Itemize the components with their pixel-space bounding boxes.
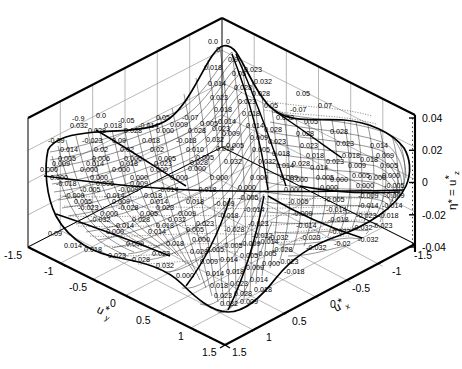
- figure-container: -0.9 0.0 -0.05 0.05 -0.07 0.028 0.028 0.…: [0, 0, 462, 369]
- y-tick-label: -0.5: [69, 281, 87, 293]
- svg-text:0.028: 0.028: [132, 255, 150, 264]
- svg-text:-0.02: -0.02: [334, 239, 350, 248]
- x-tick-label: 1: [266, 331, 272, 343]
- svg-text:-0.023: -0.023: [278, 257, 298, 266]
- svg-text:-0.018: -0.018: [176, 136, 196, 145]
- z-tick-label: 0.02: [422, 144, 443, 156]
- svg-text:0.0: 0.0: [208, 37, 218, 46]
- svg-text:0.000: 0.000: [192, 235, 210, 244]
- svg-text:-0.018: -0.018: [196, 185, 216, 194]
- svg-text:0.028: 0.028: [292, 159, 310, 168]
- svg-text:0.032: 0.032: [224, 157, 242, 166]
- svg-text:0.000: 0.000: [176, 271, 194, 280]
- svg-text:0.018: 0.018: [186, 197, 204, 206]
- svg-text:-0.018: -0.018: [378, 211, 398, 220]
- svg-text:0.000: 0.000: [210, 173, 228, 182]
- svg-text:0.000: 0.000: [330, 175, 348, 184]
- svg-text:0.023: 0.023: [210, 93, 228, 102]
- svg-text:-0.023: -0.023: [82, 136, 102, 145]
- svg-text:0.028: 0.028: [252, 89, 270, 98]
- svg-text:0.02: 0.02: [94, 145, 108, 154]
- svg-text:-0.023: -0.023: [372, 221, 392, 230]
- svg-text:-0.018: -0.018: [218, 211, 238, 220]
- svg-text:0.028: 0.028: [330, 127, 348, 136]
- svg-text:0.023: 0.023: [300, 141, 318, 150]
- svg-text:0.014: 0.014: [246, 121, 264, 130]
- svg-text:0.018: 0.018: [254, 285, 272, 294]
- svg-text:0.018: 0.018: [226, 267, 244, 276]
- svg-text:0.018: 0.018: [166, 239, 184, 248]
- svg-text:0.05: 0.05: [264, 101, 278, 110]
- svg-text:-0.009: -0.009: [214, 199, 234, 208]
- svg-text:-0.028: -0.028: [272, 245, 292, 254]
- svg-text:0.023: 0.023: [268, 137, 286, 146]
- svg-text:0.032: 0.032: [220, 299, 238, 308]
- svg-text:-0.014: -0.014: [382, 201, 402, 210]
- svg-text:0.005: 0.005: [140, 209, 158, 218]
- svg-text:0.018: 0.018: [120, 159, 138, 168]
- svg-text:0.000: 0.000: [238, 183, 256, 192]
- svg-text:0.018: 0.018: [242, 109, 260, 118]
- y-tick-label: 1.5: [202, 346, 217, 358]
- svg-text:0.009: 0.009: [200, 257, 218, 266]
- svg-text:0.005: 0.005: [74, 197, 92, 206]
- svg-text:0.000: 0.000: [356, 181, 374, 190]
- svg-text:-0.018: -0.018: [328, 215, 348, 224]
- svg-text:0.023: 0.023: [196, 219, 214, 228]
- svg-text:-0.014: -0.014: [244, 205, 264, 214]
- svg-text:-0.005: -0.005: [384, 181, 404, 190]
- svg-text:0.009: 0.009: [126, 239, 144, 248]
- svg-text:0.014: 0.014: [116, 221, 134, 230]
- svg-text:-0.014: -0.014: [296, 221, 316, 230]
- svg-text:0.018: 0.018: [204, 63, 222, 72]
- svg-text:-0.009: -0.009: [292, 209, 312, 218]
- svg-text:0.000: 0.000: [368, 173, 386, 182]
- svg-text:-0.009: -0.009: [384, 191, 404, 200]
- svg-text:0.032: 0.032: [156, 261, 174, 270]
- svg-text:0.018: 0.018: [142, 136, 160, 145]
- svg-text:-0.032: -0.032: [268, 233, 288, 242]
- svg-text:-0.009: -0.009: [118, 185, 138, 194]
- svg-text:0.023: 0.023: [108, 251, 126, 260]
- svg-text:0.000: 0.000: [250, 173, 268, 182]
- z-tick-label: -0.02: [422, 209, 446, 221]
- x-tick-label: 1.5: [232, 346, 247, 358]
- svg-text:0.018: 0.018: [104, 121, 122, 130]
- svg-text:0.032: 0.032: [70, 121, 88, 130]
- svg-text:0.018: 0.018: [342, 151, 360, 160]
- svg-text:0.014: 0.014: [86, 159, 104, 168]
- svg-text:0.009: 0.009: [178, 209, 196, 218]
- svg-text:0.014: 0.014: [208, 79, 226, 88]
- svg-text:0.000: 0.000: [90, 173, 108, 182]
- svg-text:0.018: 0.018: [360, 155, 378, 164]
- svg-text:-0.005: -0.005: [80, 185, 100, 194]
- svg-text:0.023: 0.023: [238, 97, 256, 106]
- svg-text:0.018: 0.018: [210, 281, 228, 290]
- z-axis-title: η* = u*z: [443, 171, 461, 210]
- svg-text:-0.014: -0.014: [326, 205, 346, 214]
- svg-text:0.014: 0.014: [220, 255, 238, 264]
- svg-text:-0.005: -0.005: [288, 197, 308, 206]
- svg-text:-0.032: -0.032: [352, 223, 372, 232]
- svg-text:0.005: 0.005: [252, 145, 270, 154]
- svg-text:-0.023: -0.023: [248, 219, 268, 228]
- svg-text:0.014: 0.014: [64, 241, 82, 250]
- svg-text:-0.014: -0.014: [138, 121, 158, 130]
- svg-text:0.023: 0.023: [230, 279, 248, 288]
- svg-text:0.023: 0.023: [154, 159, 172, 168]
- svg-text:0.009: 0.009: [112, 197, 130, 206]
- z-tick-label: 0: [422, 176, 428, 188]
- svg-text:0.023: 0.023: [326, 157, 344, 166]
- svg-text:0.09: 0.09: [112, 136, 126, 145]
- z-axis-title-eta: η*: [446, 199, 458, 210]
- svg-text:0.0: 0.0: [96, 111, 106, 120]
- svg-text:0.032: 0.032: [276, 113, 294, 122]
- svg-text:-0.018: -0.018: [284, 267, 304, 276]
- y-tick-label: -1: [44, 265, 53, 277]
- y-tick-label: 0: [110, 297, 116, 309]
- x-tick-label: 0.5: [292, 315, 307, 327]
- svg-text:0.05: 0.05: [304, 117, 318, 126]
- x-tick-label: -1: [392, 265, 401, 277]
- svg-text:-0.023: -0.023: [300, 233, 320, 242]
- y-tick-label: 1: [178, 330, 184, 342]
